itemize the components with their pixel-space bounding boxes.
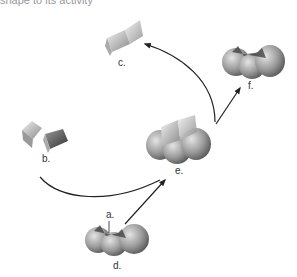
shape-c: [105, 20, 143, 56]
label-e: e.: [175, 165, 183, 176]
label-d: d.: [113, 260, 121, 271]
label-a: a.: [106, 209, 114, 220]
shape-b: [22, 121, 68, 153]
shape-f: [222, 45, 285, 79]
protein-assembly-diagram: [0, 0, 297, 277]
label-c: c.: [118, 57, 126, 68]
arrow-e-to-f: [216, 88, 240, 124]
shape-d: [85, 221, 149, 256]
label-b: b.: [42, 153, 50, 164]
arrow-e-to-c: [145, 44, 215, 122]
shape-e: [146, 115, 211, 164]
arrow-b-to-e: [40, 177, 160, 197]
label-f: f.: [248, 80, 254, 91]
